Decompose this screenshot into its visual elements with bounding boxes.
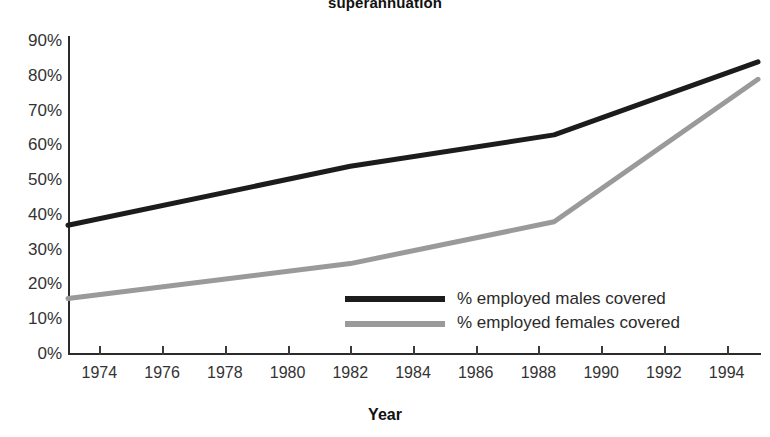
legend-swatch-females-icon (345, 321, 445, 327)
legend-label-males: % employed males covered (457, 287, 666, 311)
legend-swatch-males-icon (345, 296, 445, 302)
chart-plot-lines (0, 0, 770, 437)
series-line-females (68, 79, 758, 298)
series-line-males (68, 62, 758, 225)
chart-container: superannuation 90%80%70%60%50%40%30%20%1… (0, 0, 770, 437)
chart-legend: % employed males covered % employed fema… (345, 287, 760, 335)
legend-label-females: % employed females covered (457, 311, 680, 335)
x-axis-title: Year (0, 406, 770, 424)
legend-item-females: % employed females covered (345, 311, 760, 335)
legend-item-males: % employed males covered (345, 287, 760, 311)
